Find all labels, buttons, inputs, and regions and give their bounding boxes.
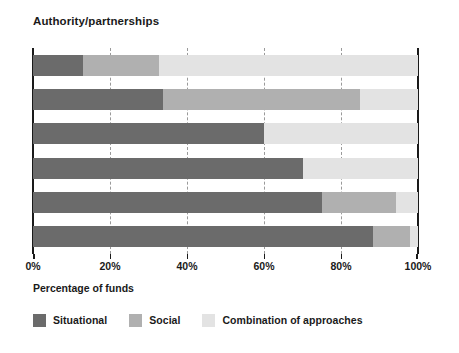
tick-mark-80 xyxy=(341,254,342,259)
legend-swatch-icon xyxy=(202,314,215,327)
legend-item-social[interactable]: Social xyxy=(129,314,180,327)
chart-container: Authority/partnerships 0%20%40%60%80%100… xyxy=(0,0,459,353)
tick-mark-100 xyxy=(416,254,418,259)
tick-mark-40 xyxy=(187,254,188,259)
bar-segment-combination-of-approaches xyxy=(159,55,418,76)
legend-item-situational[interactable]: Situational xyxy=(33,314,107,327)
tick-mark-20 xyxy=(110,254,111,259)
x-axis-label: Percentage of funds xyxy=(33,282,134,294)
chart-legend: SituationalSocialCombination of approach… xyxy=(33,312,385,328)
tick-label-80: 80% xyxy=(330,260,351,272)
tick-mark-0 xyxy=(33,254,35,259)
tick-label-60: 60% xyxy=(253,260,274,272)
legend-swatch-icon xyxy=(129,314,142,327)
bar-segment-situational xyxy=(33,55,83,76)
legend-label: Situational xyxy=(53,314,107,326)
legend-label: Combination of approaches xyxy=(222,314,362,326)
bar-segment-combination-of-approaches xyxy=(396,192,418,213)
legend-item-combination-of-approaches[interactable]: Combination of approaches xyxy=(202,314,362,327)
chart-title: Authority/partnerships xyxy=(33,15,159,27)
bar-segment-situational xyxy=(33,123,264,144)
bar-segment-combination-of-approaches xyxy=(410,226,418,247)
x-axis-ticks: 0%20%40%60%80%100% xyxy=(33,254,418,274)
bar-segment-social xyxy=(83,55,158,76)
bar-segment-combination-of-approaches xyxy=(264,123,418,144)
bar-segment-combination-of-approaches xyxy=(303,158,419,179)
bar-segment-social xyxy=(163,89,361,110)
plot-area xyxy=(33,48,418,254)
legend-label: Social xyxy=(149,314,180,326)
bar-segment-situational xyxy=(33,226,373,247)
bars-layer xyxy=(33,48,418,254)
bar-segment-social xyxy=(322,192,396,213)
bar-row xyxy=(33,226,418,247)
bar-row xyxy=(33,55,418,76)
tick-label-40: 40% xyxy=(176,260,197,272)
bar-row xyxy=(33,123,418,144)
bar-segment-situational xyxy=(33,158,303,179)
bar-segment-combination-of-approaches xyxy=(360,89,418,110)
bar-segment-situational xyxy=(33,89,163,110)
tick-label-20: 20% xyxy=(99,260,120,272)
bar-row xyxy=(33,192,418,213)
tick-label-100: 100% xyxy=(405,260,432,272)
bar-row xyxy=(33,158,418,179)
tick-label-0: 0% xyxy=(25,260,40,272)
tick-mark-60 xyxy=(264,254,265,259)
legend-swatch-icon xyxy=(33,314,46,327)
bar-segment-social xyxy=(373,226,410,247)
bar-segment-situational xyxy=(33,192,322,213)
bar-row xyxy=(33,89,418,110)
